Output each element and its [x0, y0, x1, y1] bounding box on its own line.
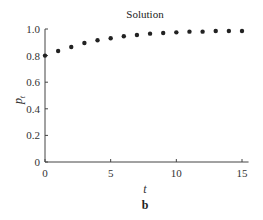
- x-tick-label: 15: [237, 167, 249, 179]
- data-point: [135, 33, 139, 37]
- x-axis-label: t: [143, 182, 147, 196]
- data-point: [95, 38, 99, 42]
- y-tick-label: 1.0: [26, 23, 40, 35]
- data-point: [227, 29, 231, 33]
- y-tick-label: 0.6: [26, 76, 40, 88]
- data-point: [69, 45, 73, 49]
- data-point: [122, 34, 126, 38]
- axes: [45, 29, 249, 162]
- scatter-chart: Solution 00.20.40.60.81.0 051015 pt t b: [0, 0, 263, 220]
- y-tick-label: 0.4: [26, 103, 40, 115]
- y-axis-label-sub: t: [18, 95, 27, 98]
- y-axis-label: pt: [11, 95, 27, 105]
- y-tick-label: 0.2: [26, 129, 40, 141]
- data-point: [200, 29, 204, 33]
- data-point: [148, 31, 152, 35]
- y-axis-label-main: p: [11, 98, 25, 105]
- y-tick-label: 0.8: [26, 50, 40, 62]
- y-tick-label: 0: [35, 156, 41, 168]
- data-point: [187, 29, 191, 33]
- data-point: [174, 30, 178, 34]
- data-point: [56, 49, 60, 53]
- data-point: [161, 31, 165, 35]
- data-point: [82, 41, 86, 45]
- data-point: [214, 29, 218, 33]
- data-point: [43, 53, 47, 57]
- data-points: [43, 29, 244, 58]
- x-tick-label: 5: [108, 167, 114, 179]
- x-tick-label: 0: [42, 167, 48, 179]
- chart-title: Solution: [126, 8, 164, 20]
- x-tick-label: 10: [171, 167, 183, 179]
- data-point: [240, 29, 244, 33]
- panel-label: b: [142, 198, 149, 212]
- data-point: [108, 36, 112, 40]
